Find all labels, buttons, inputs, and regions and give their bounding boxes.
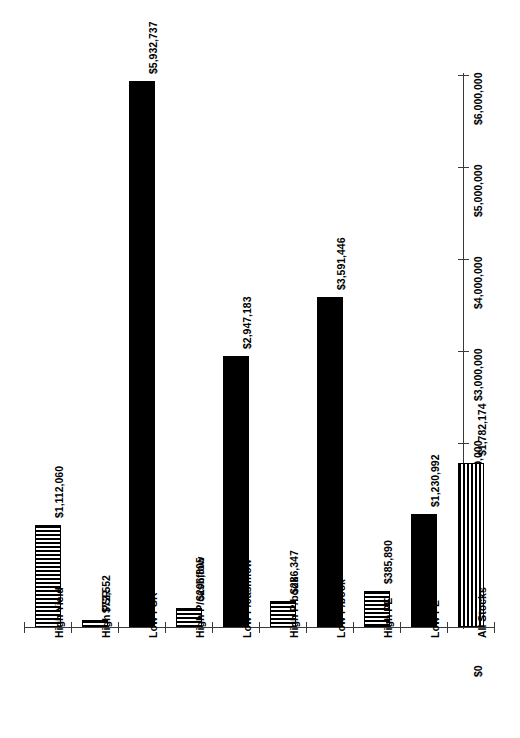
category-axis-label: Low PSR	[147, 592, 159, 638]
value-axis-tick	[458, 75, 469, 76]
value-axis-tick-label: $4,000,000	[472, 209, 484, 309]
bar-value-label: $385,890	[382, 541, 394, 585]
category-axis-tick	[71, 622, 72, 633]
category-axis-label: High PE	[382, 598, 394, 638]
category-axis-label: Low P/cashflow	[241, 559, 253, 638]
value-axis-tick	[458, 259, 469, 260]
category-axis-tick	[400, 622, 401, 633]
bar	[129, 81, 155, 627]
category-axis-tick	[494, 622, 495, 633]
category-axis-tick	[212, 622, 213, 633]
category-axis-label: High P/book	[288, 577, 300, 638]
value-axis-tick	[458, 351, 469, 352]
bar-value-label: $1,112,060	[53, 466, 65, 518]
category-axis-tick	[353, 622, 354, 633]
category-axis-tick	[165, 622, 166, 633]
value-axis-tick-label: $3,000,000	[472, 301, 484, 401]
category-axis-tick	[24, 622, 25, 633]
category-axis-tick	[118, 622, 119, 633]
bar-value-label: $3,591,446	[335, 237, 347, 290]
category-axis-label: High Yield	[53, 587, 65, 638]
category-axis-label: All Stocks	[476, 587, 488, 638]
bar-chart: $0$1,000,000$2,000,000$3,000,000$4,000,0…	[0, 0, 520, 738]
category-axis-label: Low PE	[429, 600, 441, 638]
value-axis-tick-label: $6,000,000	[472, 25, 484, 125]
bar-value-label: $5,932,737	[147, 22, 159, 75]
value-axis-tick	[458, 443, 469, 444]
bar	[317, 297, 343, 627]
value-axis-tick-label: $5,000,000	[472, 117, 484, 217]
category-axis-label: High PSR	[100, 590, 112, 638]
bar-value-label: $1,782,174	[476, 403, 488, 456]
bar-value-label: $1,230,992	[429, 454, 441, 507]
bar-value-label: $2,947,183	[241, 296, 253, 349]
value-axis-tick	[458, 167, 469, 168]
category-axis-tick	[306, 622, 307, 633]
category-axis-tick	[447, 622, 448, 633]
category-axis-label: Low P/book	[335, 579, 347, 638]
category-axis-label: High P/cashflow	[194, 557, 206, 638]
category-axis-tick	[259, 622, 260, 633]
